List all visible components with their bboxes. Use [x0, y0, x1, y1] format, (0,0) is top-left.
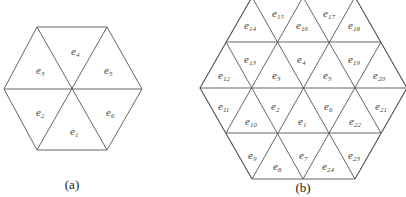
- element-label-e6: e6: [106, 106, 115, 120]
- hexagon-a-labels: e4e3e5e2e6e1: [36, 45, 115, 139]
- element-label-e23: e23: [348, 149, 360, 163]
- element-label-e18: e18: [348, 19, 360, 33]
- element-label-e3: e3: [36, 64, 45, 78]
- element-label-e14: e14: [244, 19, 256, 33]
- element-label-e20: e20: [373, 69, 385, 83]
- caption-a: (a): [65, 177, 79, 192]
- element-label-e5: e5: [323, 69, 332, 83]
- element-label-e10: e10: [245, 115, 257, 129]
- element-label-e21: e21: [375, 100, 387, 114]
- caption-b: (b): [295, 180, 310, 195]
- element-label-e11: e11: [218, 100, 229, 114]
- element-label-e2: e2: [271, 100, 280, 114]
- element-label-e7: e7: [299, 149, 308, 163]
- element-label-e22: e22: [349, 115, 361, 129]
- element-label-e12: e12: [218, 69, 230, 83]
- element-label-e13: e13: [244, 53, 256, 67]
- element-label-e3: e3: [272, 69, 281, 83]
- element-label-e19: e19: [348, 53, 360, 67]
- element-label-e5: e5: [104, 64, 113, 78]
- element-label-e9: e9: [248, 149, 257, 163]
- element-label-e6: e6: [324, 100, 333, 114]
- mesh-figure: e4e3e5e2e6e1 e14e15e16e17e18e12e13e3e4e5…: [0, 0, 406, 197]
- element-label-e1: e1: [298, 115, 306, 129]
- element-label-e1: e1: [70, 125, 78, 139]
- element-label-e15: e15: [272, 7, 284, 21]
- element-label-e4: e4: [71, 45, 80, 59]
- element-label-e8: e8: [273, 160, 282, 174]
- element-label-e17: e17: [323, 7, 335, 21]
- element-label-e2: e2: [36, 106, 45, 120]
- element-label-e24: e24: [322, 160, 334, 174]
- element-label-e4: e4: [297, 53, 306, 67]
- element-label-e16: e16: [296, 19, 308, 33]
